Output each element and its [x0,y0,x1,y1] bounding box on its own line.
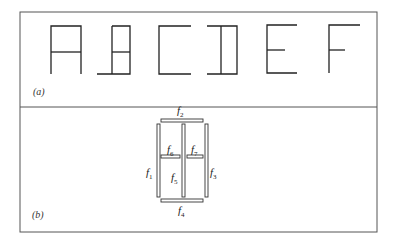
segment-label-f4: f4 [178,204,185,219]
segment-f3 [205,124,208,197]
segment-label-f5: f5 [171,171,178,186]
panel-b-label: (b) [32,209,44,220]
segment-f5 [182,124,185,197]
glyph-d [207,26,237,74]
segment-f1 [157,124,160,197]
segment-label-f3: f3 [210,166,217,181]
panel-a-label: (a) [33,86,45,97]
segment-display [157,119,208,202]
segment-f4 [161,199,203,202]
figure-canvas [0,0,394,242]
panel-a-glyphs [51,25,360,74]
segment-label-f1: f1 [146,166,153,181]
glyph-b [97,26,130,74]
glyph-c [159,26,191,74]
glyph-a [51,26,81,74]
segment-label-f6: f6 [167,143,174,158]
segment-f2 [161,119,203,122]
glyph-e [267,25,297,73]
glyph-f [329,25,360,73]
segment-label-f2: f2 [177,104,184,119]
segment-label-f7: f7 [191,143,198,158]
